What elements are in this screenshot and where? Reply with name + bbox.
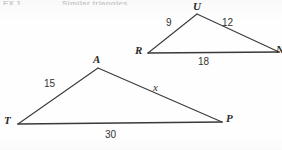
vertex-label-t: T	[4, 115, 11, 126]
segment-ru	[148, 14, 197, 53]
figure-canvas: EX 1 Similar triangles U R N 9 12 18 A T…	[0, 0, 282, 150]
segment-ta	[18, 68, 98, 124]
triangles-drawing	[0, 0, 282, 150]
vertex-label-u: U	[193, 1, 201, 12]
segment-ap	[98, 68, 222, 122]
segment-un	[197, 14, 279, 52]
side-measure-ap-unknown: x	[153, 82, 158, 93]
side-measure-tp: 30	[105, 130, 116, 140]
vertex-label-p: P	[226, 113, 233, 124]
segment-rn	[148, 52, 279, 53]
triangle-tap	[18, 68, 222, 124]
side-measure-un: 12	[222, 18, 233, 28]
vertex-label-r: R	[135, 45, 142, 56]
vertex-label-n: N	[276, 44, 282, 55]
segment-tp	[18, 122, 222, 124]
vertex-label-a: A	[93, 54, 100, 65]
side-measure-ru: 9	[166, 18, 172, 28]
side-measure-rn: 18	[198, 57, 209, 67]
side-measure-ta: 15	[44, 79, 55, 89]
